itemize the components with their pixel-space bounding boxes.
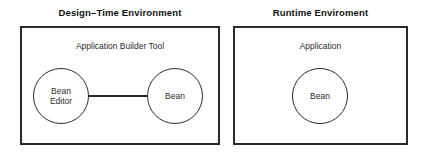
- bean-node-runtime: Bean: [292, 68, 348, 124]
- bean-editor-node-label: Bean Editor: [50, 86, 72, 107]
- bean-node-runtime-label: Bean: [310, 91, 330, 102]
- bean-editor-node: Bean Editor: [33, 68, 89, 124]
- application-label: Application: [233, 41, 408, 52]
- bean-node-design-time: Bean: [147, 68, 203, 124]
- design-time-environment-title: Design–Time Environment: [20, 7, 220, 19]
- bean-node-design-time-label: Bean: [165, 91, 185, 102]
- runtime-environment-title: Runtime Enviroment: [233, 7, 408, 19]
- application-builder-tool-label: Application Builder Tool: [20, 41, 220, 52]
- bean-editor-to-bean-connector: [87, 95, 148, 97]
- diagram-canvas: Design–Time Environment Runtime Envirome…: [0, 0, 423, 152]
